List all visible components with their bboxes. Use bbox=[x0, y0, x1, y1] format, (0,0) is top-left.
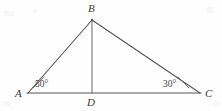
geometry-figure: B A D C 50° 30° bbox=[0, 0, 222, 111]
segment-BC bbox=[92, 20, 200, 93]
vertex-label-B: B bbox=[88, 3, 95, 14]
geometry-canvas bbox=[0, 0, 222, 111]
vertex-label-D: D bbox=[87, 97, 95, 108]
angle-label-at-a: 50° bbox=[35, 80, 48, 90]
angle-mark-at-C bbox=[178, 77, 189, 88]
vertex-label-A: A bbox=[15, 88, 22, 99]
vertex-dot-B bbox=[91, 19, 93, 21]
angle-label-at-c: 30° bbox=[163, 80, 176, 90]
vertex-label-C: C bbox=[205, 88, 212, 99]
